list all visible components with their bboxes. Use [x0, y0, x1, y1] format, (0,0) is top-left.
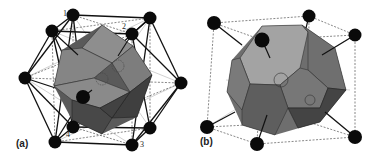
- sphere-3: [126, 139, 139, 152]
- truncated-octahedron: [227, 25, 346, 135]
- panel-label-b: (b): [200, 136, 213, 147]
- sphere-1: [67, 9, 80, 22]
- sphere-2: [126, 28, 139, 41]
- figure-panel-a: 1 2 3 4 (a): [0, 0, 190, 162]
- vertex-label-2: 2: [122, 22, 126, 31]
- vertex-label-3: 3: [140, 140, 144, 149]
- sphere-4: [49, 136, 62, 149]
- vertex-label-4: 4: [66, 130, 70, 139]
- truncated-octahedron-diagram: [190, 0, 375, 162]
- vertex-label-1: 1: [63, 9, 67, 18]
- figure-panel-b: (b): [190, 0, 375, 162]
- panel-label-a: (a): [16, 138, 28, 149]
- cuboctahedral-cage-diagram: [0, 0, 190, 162]
